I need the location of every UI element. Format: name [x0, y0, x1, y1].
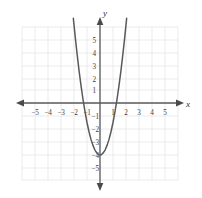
- x-tick-label: −5: [31, 109, 39, 117]
- y-tick-label: 3: [92, 63, 96, 71]
- x-axis-label: x: [185, 99, 190, 109]
- y-tick-label: 2: [92, 76, 96, 84]
- y-axis-label: y: [102, 8, 107, 18]
- x-tick-label: 3: [137, 109, 141, 117]
- y-tick-label: 4: [92, 50, 96, 58]
- y-axis-tick-labels: 5 4 3 2 1 −1 −2 −3 −4 −5: [91, 37, 99, 173]
- x-tick-label: 2: [124, 109, 128, 117]
- y-tick-label: 5: [92, 37, 96, 45]
- y-tick-label: −5: [91, 165, 99, 173]
- x-axis-arrow-left-icon: [16, 100, 24, 107]
- x-tick-label: −3: [57, 109, 65, 117]
- x-tick-label: 5: [163, 109, 167, 117]
- y-axis-arrow-down-icon: [97, 183, 104, 191]
- y-tick-label: −1: [91, 113, 99, 121]
- x-tick-label: −2: [70, 109, 78, 117]
- y-tick-label: −2: [91, 126, 99, 134]
- coordinate-plane: −5 −4 −3 −2 −1 1 2 3 4 5 5 4 3 2 1 −1 −2…: [0, 0, 202, 198]
- x-tick-label: −4: [44, 109, 52, 117]
- y-tick-label: −4: [91, 152, 99, 160]
- y-tick-label: 1: [92, 87, 96, 95]
- graph-figure: −5 −4 −3 −2 −1 1 2 3 4 5 5 4 3 2 1 −1 −2…: [0, 0, 202, 198]
- x-tick-label: 4: [150, 109, 154, 117]
- y-axis-arrow-up-icon: [97, 17, 104, 25]
- x-axis-arrow-right-icon: [176, 100, 184, 107]
